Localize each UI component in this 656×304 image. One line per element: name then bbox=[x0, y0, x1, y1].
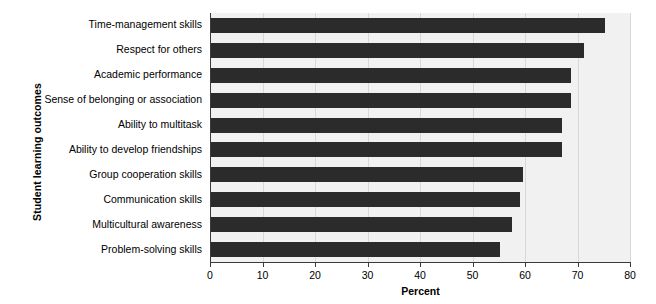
bar bbox=[210, 217, 512, 232]
bar bbox=[210, 18, 605, 33]
category-label: Ability to multitask bbox=[26, 119, 202, 130]
category-label: Group cooperation skills bbox=[26, 169, 202, 180]
x-axis-tick bbox=[630, 262, 631, 267]
category-label: Multicultural awareness bbox=[26, 219, 202, 230]
bar bbox=[210, 118, 562, 133]
x-axis-title: Percent bbox=[210, 285, 631, 297]
bar bbox=[210, 93, 571, 108]
category-label: Academic performance bbox=[26, 69, 202, 80]
category-label: Problem-solving skills bbox=[26, 244, 202, 255]
category-label: Respect for others bbox=[26, 44, 202, 55]
x-axis-tick-label: 80 bbox=[610, 269, 650, 281]
x-axis-tick-label: 50 bbox=[453, 269, 493, 281]
category-label: Ability to develop friendships bbox=[26, 144, 202, 155]
bar bbox=[210, 167, 523, 182]
bar bbox=[210, 68, 571, 83]
x-axis-tick-label: 10 bbox=[243, 269, 283, 281]
x-axis-tick bbox=[525, 262, 526, 267]
x-axis-tick bbox=[473, 262, 474, 267]
category-label: Sense of belonging or association bbox=[26, 94, 202, 105]
category-label-list: Time-management skillsRespect for others… bbox=[28, 13, 206, 262]
x-axis-tick bbox=[263, 262, 264, 267]
category-label: Communication skills bbox=[26, 194, 202, 205]
x-axis-tick-label: 0 bbox=[190, 269, 230, 281]
x-axis-tick-label: 40 bbox=[400, 269, 440, 281]
gridline bbox=[630, 13, 631, 262]
bar bbox=[210, 192, 520, 207]
x-axis-tick-label: 70 bbox=[558, 269, 598, 281]
bar bbox=[210, 242, 500, 257]
x-axis-tick bbox=[420, 262, 421, 267]
y-axis-line bbox=[210, 13, 211, 262]
x-axis-tick bbox=[315, 262, 316, 267]
plot-area bbox=[210, 13, 630, 262]
x-axis-tick-label: 30 bbox=[348, 269, 388, 281]
x-axis-tick bbox=[368, 262, 369, 267]
bar-chart: Student learning outcomes Time-managemen… bbox=[0, 0, 656, 304]
bar bbox=[210, 142, 562, 157]
x-axis-tick bbox=[578, 262, 579, 267]
x-axis-tick-label: 60 bbox=[505, 269, 545, 281]
x-axis-tick-label: 20 bbox=[295, 269, 335, 281]
bar bbox=[210, 43, 584, 58]
x-axis-tick bbox=[210, 262, 211, 267]
category-label: Time-management skills bbox=[26, 19, 202, 30]
